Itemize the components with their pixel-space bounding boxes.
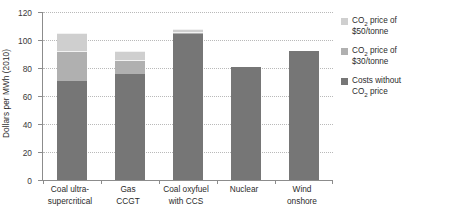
legend-label-line1: Costs without (352, 76, 401, 87)
bar-segment-co2-30 (115, 60, 145, 74)
x-axis-label-line2: onshore (267, 196, 337, 208)
y-tick-label-60: 60 (23, 92, 32, 102)
y-tick-40: 40 (38, 124, 42, 125)
y-axis-title: Dollars per MWh (2010) (0, 0, 14, 186)
gridline-120 (43, 12, 333, 13)
bar-segment-co2-30 (57, 51, 87, 80)
x-axis-label-line2: with CCS (151, 196, 221, 208)
legend-label-pre: CO (352, 46, 364, 55)
bar-segment-base (289, 51, 319, 180)
y-axis-title-text: Dollars per MWh (2010) (3, 48, 12, 137)
plot-area: 120 100 80 60 40 20 0 (42, 12, 333, 180)
legend-item-co2-price-50: CO2 price of $50/tonne (341, 16, 449, 37)
legend-item-co2-price-30: CO2 price of $30/tonne (341, 46, 449, 67)
bar-segment-co2-30 (173, 32, 203, 35)
bar-segment-base (231, 67, 261, 180)
legend-swatch-icon-co2-30 (341, 48, 348, 55)
bar-segment-base (115, 74, 145, 180)
legend-label-line2: CO2 price (352, 87, 401, 98)
legend-swatch-icon-co2-50 (341, 18, 348, 25)
bar-nuclear (231, 67, 261, 180)
bar-segment-base (173, 34, 203, 180)
legend-label-post: price of (368, 16, 397, 25)
legend-label-line2: $50/tonne (352, 27, 397, 38)
legend-swatch-icon-base (341, 78, 348, 85)
legend: CO2 price of $50/tonne CO2 price of $30/… (341, 16, 449, 106)
y-tick-20: 20 (38, 152, 42, 153)
chart-figure: Dollars per MWh (2010) 120 100 80 60 40 … (0, 0, 449, 214)
x-axis-line (42, 180, 333, 181)
legend-label-base: Costs without CO2 price (352, 76, 401, 97)
bar-coal-ultra-supercritical (57, 33, 87, 180)
y-tick-label-40: 40 (23, 120, 32, 130)
y-tick-label-100: 100 (18, 36, 32, 46)
y-tick-80: 80 (38, 68, 42, 69)
legend-label-line2: $30/tonne (352, 57, 397, 68)
y-tick-label-0: 0 (27, 176, 32, 186)
legend-label-pre: CO (352, 16, 364, 25)
legend-label-post: price of (368, 46, 397, 55)
legend-item-costs-without-co2: Costs without CO2 price (341, 76, 449, 97)
y-tick-120: 120 (38, 12, 42, 13)
bar-segment-base (57, 81, 87, 180)
legend-label-co2-30: CO2 price of $30/tonne (352, 46, 397, 67)
legend-label-co2-50: CO2 price of $50/tonne (352, 16, 397, 37)
legend-label-subscript: 2 (364, 90, 367, 97)
x-axis-label-line1: Wind (267, 184, 337, 196)
y-tick-60: 60 (38, 96, 42, 97)
legend-label-line1: CO2 price of (352, 46, 397, 57)
bar-segment-co2-50 (173, 29, 203, 32)
bar-gas-ccgt (115, 51, 145, 180)
bar-coal-oxyfuel-with-ccs (173, 29, 203, 180)
y-tick-label-80: 80 (23, 64, 32, 74)
y-tick-100: 100 (38, 40, 42, 41)
bar-segment-co2-50 (115, 51, 145, 59)
y-tick-0: 0 (38, 180, 42, 181)
bar-wind-onshore (289, 51, 319, 180)
bar-segment-co2-50 (57, 33, 87, 51)
y-tick-label-120: 120 (18, 8, 32, 18)
y-tick-label-20: 20 (23, 148, 32, 158)
legend-label-line1: CO2 price of (352, 16, 397, 27)
x-axis-label-wind-onshore: Wind onshore (267, 184, 337, 207)
